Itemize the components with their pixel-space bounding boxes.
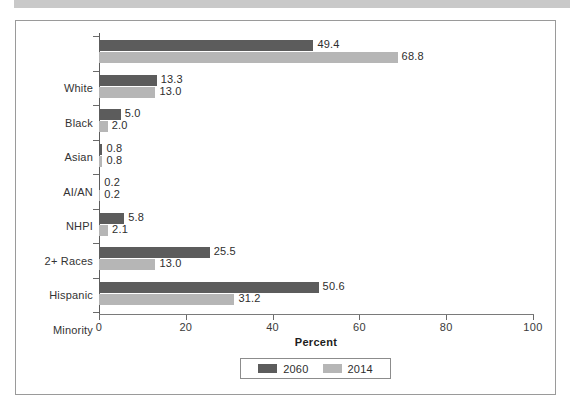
category-label: NHPI <box>3 220 93 232</box>
x-axis-tick <box>273 315 274 320</box>
scan-artifact-band <box>14 0 570 8</box>
bar-2014-black <box>99 87 155 98</box>
bar-2060-white <box>99 40 313 51</box>
bar-2060-black <box>99 75 157 86</box>
bar-2014-minority <box>99 294 234 305</box>
y-axis-tick <box>93 105 99 106</box>
category-axis-labels: WhiteBlackAsianAI/ANNHPI2+ RacesHispanic… <box>0 36 93 312</box>
bar-value-label: 0.2 <box>104 176 120 188</box>
bar-value-label: 25.5 <box>214 245 236 257</box>
legend-label-2060: 2060 <box>283 363 308 375</box>
category-label: Asian <box>3 151 93 163</box>
bar-2060-minority <box>99 282 319 293</box>
bar-value-label: 13.3 <box>161 73 183 85</box>
x-axis-tick <box>99 315 100 320</box>
y-axis-tick <box>93 209 99 210</box>
y-axis-tick <box>93 71 99 72</box>
x-axis-tick <box>446 315 447 320</box>
y-axis-tick <box>93 36 99 37</box>
legend-swatch-2060 <box>258 364 277 373</box>
legend-swatch-2014 <box>323 364 342 373</box>
x-axis-tick <box>533 315 534 320</box>
bar-2014-nhpi <box>99 190 100 201</box>
bar-2014-ai-an <box>99 156 102 167</box>
bar-value-label: 49.4 <box>317 38 339 50</box>
bar-2014-asian <box>99 121 108 132</box>
bar-value-label: 5.8 <box>128 211 144 223</box>
x-axis-tick-label: 20 <box>166 321 206 333</box>
y-axis-tick <box>93 174 99 175</box>
bar-value-label: 5.0 <box>125 107 141 119</box>
legend-item-2060[interactable]: 2060 <box>258 363 308 375</box>
bar-value-label: 0.2 <box>104 188 120 200</box>
bar-value-label: 0.8 <box>106 154 122 166</box>
x-axis-line <box>99 314 534 315</box>
bar-value-label: 2.0 <box>112 119 128 131</box>
category-label: White <box>3 82 93 94</box>
bar-2060-nhpi <box>99 178 100 189</box>
chart-legend: 2060 2014 <box>240 358 391 379</box>
x-axis-tick-label: 80 <box>426 321 466 333</box>
x-axis-tick <box>359 315 360 320</box>
category-label: Hispanic <box>3 289 93 301</box>
x-axis-tick-label: 60 <box>339 321 379 333</box>
x-axis-tick-label: 40 <box>253 321 293 333</box>
bar-value-label: 2.1 <box>112 223 128 235</box>
x-axis-title: Percent <box>99 336 533 348</box>
x-axis-tick-label: 0 <box>79 321 119 333</box>
bar-value-label: 0.8 <box>106 142 122 154</box>
bar-2060-ai-an <box>99 144 102 155</box>
x-axis-tick <box>186 315 187 320</box>
category-label: Black <box>3 117 93 129</box>
bar-value-label: 13.0 <box>159 257 181 269</box>
y-axis-tick <box>93 312 99 313</box>
category-label: AI/AN <box>3 186 93 198</box>
y-axis-tick <box>93 140 99 141</box>
bar-value-label: 31.2 <box>238 292 260 304</box>
category-label: 2+ Races <box>3 255 93 267</box>
legend-label-2014: 2014 <box>348 363 373 375</box>
y-axis-tick <box>93 278 99 279</box>
x-axis-tick-label: 100 <box>513 321 553 333</box>
bar-2014-2-races <box>99 225 108 236</box>
bar-value-label: 50.6 <box>323 280 345 292</box>
legend-item-2014[interactable]: 2014 <box>323 363 373 375</box>
bar-value-label: 68.8 <box>402 50 424 62</box>
bar-2060-hispanic <box>99 247 210 258</box>
bar-2014-hispanic <box>99 259 155 270</box>
bar-value-label: 13.0 <box>159 85 181 97</box>
bar-2014-white <box>99 52 398 63</box>
y-axis-tick <box>93 243 99 244</box>
